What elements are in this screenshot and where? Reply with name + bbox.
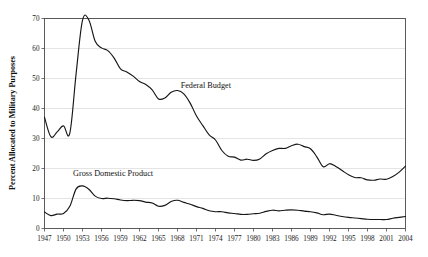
x-tick-label: 1995: [341, 235, 356, 243]
series-annotation: Gross Domestic Product: [73, 169, 154, 178]
x-tick-label: 1953: [75, 235, 90, 243]
y-tick-label: 60: [32, 45, 40, 53]
y-tick-label: 0: [36, 225, 40, 233]
y-tick-label: 30: [32, 135, 40, 143]
y-tick-label: 70: [32, 15, 40, 23]
x-tick-label: 1989: [303, 235, 318, 243]
x-tick-label: 1959: [113, 235, 128, 243]
x-tick-label: 1992: [322, 235, 337, 243]
x-tick-label: 1986: [284, 235, 299, 243]
x-tick-label: 1977: [227, 235, 242, 243]
series-line-gross-domestic-product: [45, 186, 406, 220]
y-tick-label: 50: [32, 75, 40, 83]
y-axis-tick-labels: 010203040506070: [32, 15, 40, 233]
data-series: [45, 15, 406, 220]
x-tick-label: 1950: [56, 235, 71, 243]
y-tick-label: 40: [32, 105, 40, 113]
x-tick-label: 1947: [37, 235, 52, 243]
x-tick-label: 1968: [170, 235, 185, 243]
series-line-federal-budget: [45, 15, 406, 180]
military-spending-chart: 010203040506070 194719501953195619591962…: [0, 0, 428, 257]
x-tick-label: 2001: [379, 235, 394, 243]
x-tick-label: 1965: [151, 235, 166, 243]
plot-frame: [45, 19, 406, 229]
x-tick-label: 1962: [132, 235, 147, 243]
series-annotation: Federal Budget: [181, 81, 232, 90]
y-axis-title: Percent Allocated to Military Purposes: [8, 56, 17, 190]
x-tick-label: 1980: [246, 235, 261, 243]
x-tick-label: 1956: [94, 235, 109, 243]
x-tick-label: 1983: [265, 235, 280, 243]
x-tick-label: 1974: [208, 235, 223, 243]
x-tick-label: 2004: [398, 235, 413, 243]
x-axis-tick-labels: 1947195019531956195919621965196819711974…: [37, 235, 413, 243]
y-tick-label: 20: [32, 165, 40, 173]
x-tick-label: 1971: [189, 235, 204, 243]
chart-canvas: 010203040506070 194719501953195619591962…: [0, 0, 428, 257]
series-annotations: Federal BudgetGross Domestic Product: [73, 81, 232, 179]
y-tick-label: 10: [32, 195, 40, 203]
x-tick-label: 1998: [360, 235, 375, 243]
